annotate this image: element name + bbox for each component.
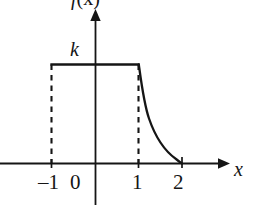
- x-tick-label-neg-one: –1: [38, 172, 59, 193]
- density-function-figure: f(x) k –1 0 1 2 x: [0, 0, 255, 205]
- curve-decay-segment: [139, 65, 182, 164]
- x-axis-label: x: [234, 159, 243, 179]
- x-tick-label-two: 2: [173, 172, 184, 193]
- y-axis-label: f(x): [71, 0, 100, 8]
- plateau-value-label: k: [70, 39, 79, 59]
- x-axis-arrowhead: [218, 158, 230, 169]
- y-axis-arrowhead: [90, 9, 100, 21]
- x-tick-label-zero: 0: [70, 172, 81, 193]
- y-axis-label-arg: (x): [77, 0, 100, 9]
- x-tick-label-one: 1: [132, 172, 143, 193]
